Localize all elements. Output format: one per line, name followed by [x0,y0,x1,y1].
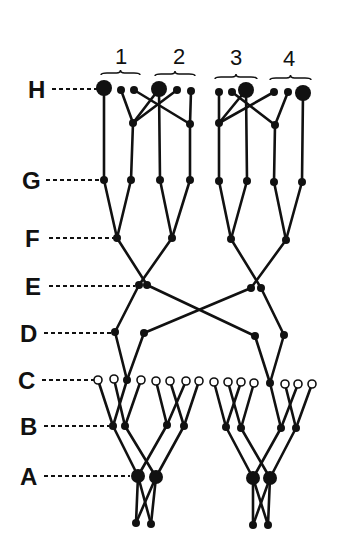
node-f [168,234,176,242]
level-label-h: H [28,76,45,103]
brace-group-2 [155,71,195,76]
edge [219,181,231,239]
edge [270,335,284,383]
node-e [257,284,265,292]
edge [115,332,127,380]
level-label-d: D [20,320,37,347]
edge [302,93,303,182]
level-leader-lines [42,89,135,476]
level-label-a: A [20,463,37,490]
node-g [215,177,223,185]
node-g [243,177,251,185]
node-c [237,378,245,386]
node-d [111,328,119,336]
edge [172,180,190,238]
node-b [222,423,230,431]
node-h [187,87,195,95]
edge [270,428,296,478]
node-a [149,470,163,484]
node-c [210,378,218,386]
node-c [182,377,190,385]
edge [190,91,191,124]
edge [121,90,133,123]
node-b [292,424,300,432]
edge [104,180,117,238]
node-e [247,284,255,292]
node-g [270,178,278,186]
node-b [109,422,117,430]
node-h [284,88,292,96]
group-label-1: 1 [115,44,127,69]
node-f [282,236,290,244]
level-label-e: E [25,273,41,300]
edge [275,92,288,125]
node-c [250,379,258,387]
node-h_mid [186,120,194,128]
edge [255,336,270,383]
edge [241,383,254,428]
node-c [308,380,316,388]
group-label-2: 2 [173,44,185,69]
node-g [127,176,135,184]
node-d [280,331,288,339]
node-c [166,377,174,385]
edge [261,288,284,335]
node-h [173,86,181,94]
node-a [131,469,145,483]
edge [160,180,172,238]
edge [117,180,131,238]
node-h [270,88,278,96]
edge [125,380,141,426]
node-c [152,377,160,385]
edge [138,425,167,476]
node-c [266,379,274,387]
node-b [237,424,245,432]
node-h [215,88,223,96]
edge [246,90,247,180]
edge [156,381,167,425]
node-c [94,376,102,384]
edge [115,285,139,332]
level-label-c: C [18,367,35,394]
edge [270,383,281,428]
edge [113,426,138,476]
group-labels: 1 2 3 4 [115,44,295,71]
node-h [117,86,125,94]
node-c [294,380,302,388]
edge [156,426,184,477]
node-a [246,471,260,485]
crossing-lineage-diagram: H G F E D C B A 1 2 3 4 [0,0,338,550]
level-label-f: F [25,225,40,252]
node-z [249,521,257,529]
edge [232,92,275,125]
node-c [123,376,131,384]
edge [139,238,172,285]
edge [274,182,286,240]
brace-group-4 [270,75,311,80]
node-h_mid [271,121,279,129]
node-h [151,81,167,97]
node-b [163,421,171,429]
level-label-b: B [20,413,37,440]
node-h_mid [215,119,223,127]
node-d [251,332,259,340]
edges-layer [98,88,312,525]
node-h [228,88,236,96]
edge [214,382,226,427]
node-b [180,422,188,430]
node-e [143,281,151,289]
edge [296,384,312,428]
brace-group-3 [215,74,257,79]
node-h [295,85,311,101]
node-e [135,281,143,289]
node-g [156,176,164,184]
node-c [281,380,289,388]
node-g [186,176,194,184]
edge [127,333,144,380]
node-c [110,375,118,383]
node-h [238,82,254,98]
node-c [224,378,232,386]
group-label-3: 3 [230,45,242,70]
brace-group-1 [101,70,140,75]
node-h_mid [129,119,137,127]
